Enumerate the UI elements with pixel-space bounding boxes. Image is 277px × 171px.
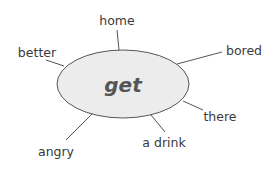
label-bored: bored xyxy=(226,43,262,58)
line-better xyxy=(46,60,64,66)
label-better: better xyxy=(18,45,56,60)
line-home xyxy=(117,30,119,50)
label-a-drink: a drink xyxy=(142,135,185,150)
line-angry xyxy=(66,114,92,140)
label-there: there xyxy=(203,109,236,124)
center-word: get xyxy=(104,73,141,97)
line-there xyxy=(183,101,203,110)
line-bored xyxy=(177,52,222,64)
label-home: home xyxy=(99,13,134,28)
word-spider-diagram: get home better bored there a drink angr… xyxy=(0,0,277,171)
label-angry: angry xyxy=(38,144,74,159)
line-a-drink xyxy=(151,115,165,132)
